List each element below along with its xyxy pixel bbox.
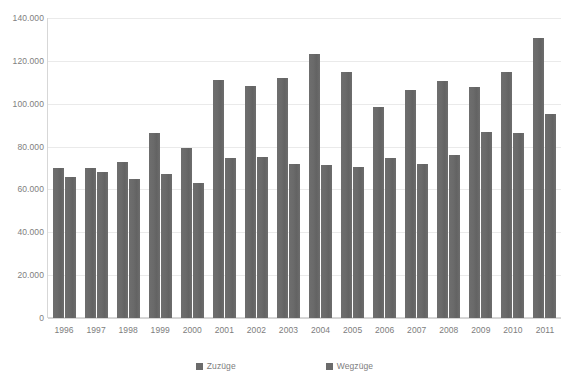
bar-group [149, 18, 172, 318]
bar-group [405, 18, 428, 318]
bar-wegzüge-1996[interactable] [65, 177, 76, 318]
bar-zuzüge-1999[interactable] [149, 133, 160, 318]
bar-wegzüge-2000[interactable] [193, 183, 204, 318]
bar-wegzüge-2006[interactable] [385, 158, 396, 318]
bar-zuzüge-2003[interactable] [277, 78, 288, 318]
y-axis: 020.00040.00060.00080.000100.000120.0001… [0, 0, 44, 386]
bar-zuzüge-2009[interactable] [469, 87, 480, 318]
x-tick-label: 2008 [432, 326, 466, 335]
x-tick-label: 1998 [111, 326, 145, 335]
x-tick-label: 2004 [304, 326, 338, 335]
bar-wegzüge-2011[interactable] [545, 114, 556, 318]
legend-label: Zuzüge [207, 362, 236, 371]
x-tick-label: 1997 [79, 326, 113, 335]
bar-zuzüge-2011[interactable] [533, 38, 544, 318]
bar-group [437, 18, 460, 318]
legend-item-wegzüge[interactable]: Wegzüge [326, 362, 373, 371]
y-tick-label: 140.000 [0, 14, 44, 23]
y-tick-label: 100.000 [0, 100, 44, 109]
x-tick-label: 1996 [47, 326, 81, 335]
bar-wegzüge-2008[interactable] [449, 155, 460, 318]
gridline [48, 318, 561, 319]
bar-zuzüge-2004[interactable] [309, 54, 320, 318]
bar-zuzüge-2006[interactable] [373, 107, 384, 319]
bar-zuzüge-2001[interactable] [213, 80, 224, 319]
legend-swatch-icon [326, 363, 333, 370]
bar-wegzüge-2007[interactable] [417, 164, 428, 318]
x-tick-label: 2009 [464, 326, 498, 335]
y-tick-label: 120.000 [0, 57, 44, 66]
x-tick-label: 2010 [496, 326, 530, 335]
x-tick-label: 2007 [400, 326, 434, 335]
bar-wegzüge-1997[interactable] [97, 172, 108, 318]
x-tick-label: 1999 [143, 326, 177, 335]
bar-group [117, 18, 140, 318]
legend-label: Wegzüge [337, 362, 373, 371]
bar-wegzüge-2001[interactable] [225, 158, 236, 318]
chart-legend: ZuzügeWegzüge [0, 358, 569, 374]
bar-wegzüge-2002[interactable] [257, 157, 268, 318]
legend-item-zuzüge[interactable]: Zuzüge [196, 362, 236, 371]
bar-wegzüge-2009[interactable] [481, 132, 492, 318]
bar-wegzüge-2004[interactable] [321, 165, 332, 318]
bar-group [533, 18, 556, 318]
bar-zuzüge-2007[interactable] [405, 90, 416, 318]
bar-zuzüge-1998[interactable] [117, 162, 128, 318]
bar-group [85, 18, 108, 318]
y-tick-label: 60.000 [0, 185, 44, 194]
bar-zuzüge-2010[interactable] [501, 72, 512, 318]
bar-wegzüge-2005[interactable] [353, 167, 364, 318]
x-tick-label: 2011 [528, 326, 562, 335]
bar-wegzüge-1999[interactable] [161, 174, 172, 318]
bar-group [309, 18, 332, 318]
bars-layer [48, 18, 561, 318]
bar-wegzüge-1998[interactable] [129, 179, 140, 318]
x-tick-label: 2003 [271, 326, 305, 335]
x-tick-label: 2005 [336, 326, 370, 335]
y-tick-label: 0 [0, 314, 44, 323]
bar-wegzüge-2003[interactable] [289, 164, 300, 318]
bar-zuzüge-2002[interactable] [245, 86, 256, 318]
y-tick-label: 20.000 [0, 271, 44, 280]
bar-group [213, 18, 236, 318]
x-axis: 1996199719981999200020012002200320042005… [48, 326, 561, 342]
bar-zuzüge-2005[interactable] [341, 72, 352, 318]
bar-wegzüge-2010[interactable] [513, 133, 524, 318]
bar-zuzüge-1997[interactable] [85, 168, 96, 318]
bar-group [245, 18, 268, 318]
bar-group [341, 18, 364, 318]
x-tick-label: 2000 [175, 326, 209, 335]
x-tick-label: 2002 [239, 326, 273, 335]
bar-group [501, 18, 524, 318]
bar-group [181, 18, 204, 318]
bar-zuzüge-2000[interactable] [181, 148, 192, 318]
x-tick-label: 2001 [207, 326, 241, 335]
y-tick-label: 40.000 [0, 228, 44, 237]
bar-zuzüge-2008[interactable] [437, 81, 448, 318]
bar-group [373, 18, 396, 318]
bar-group [53, 18, 76, 318]
bar-group [469, 18, 492, 318]
bar-zuzüge-1996[interactable] [53, 168, 64, 318]
x-tick-label: 2006 [368, 326, 402, 335]
y-tick-label: 80.000 [0, 143, 44, 152]
legend-swatch-icon [196, 363, 203, 370]
bar-chart: 020.00040.00060.00080.000100.000120.0001… [0, 0, 569, 386]
bar-group [277, 18, 300, 318]
